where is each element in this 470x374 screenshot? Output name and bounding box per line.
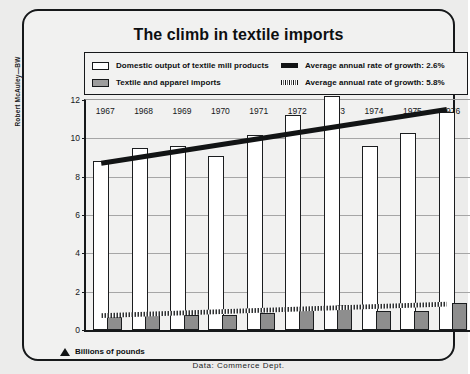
trend-domestic: [101, 110, 447, 164]
hatched-trendline-swatch-icon: [281, 80, 298, 85]
x-tick-label: 1969: [173, 106, 192, 116]
legend-column-left: Domestic output of textile mill products…: [92, 57, 269, 91]
chart-title: The climb in textile imports: [24, 26, 453, 44]
y-tick-label: 6: [75, 210, 80, 220]
plot-area: 0246810121967196819691970197119721973197…: [84, 99, 470, 332]
bar-domestic-output: [400, 133, 416, 330]
y-tick-label: 12: [71, 95, 80, 105]
legend-column-right: Average annual rate of growth: 2.6% Aver…: [281, 57, 445, 91]
legend-item-trend-domestic: Average annual rate of growth: 2.6%: [281, 57, 445, 74]
shaded-square-swatch-icon: [92, 79, 109, 87]
bar-textile-imports: [337, 305, 352, 330]
y-tick-mark: [82, 292, 86, 293]
legend-item-trend-imports: Average annual rate of growth: 5.8%: [281, 74, 445, 91]
chart-frame: The climb in textile imports Domestic ou…: [22, 9, 455, 361]
x-tick-label: 1974: [365, 106, 384, 116]
bar-textile-imports: [107, 317, 122, 330]
bar-textile-imports: [145, 313, 160, 330]
x-tick-label: 1970: [211, 106, 230, 116]
x-tick-label: 1968: [134, 106, 153, 116]
bar-textile-imports: [299, 309, 314, 330]
y-tick-label: 4: [75, 248, 80, 258]
bar-textile-imports: [414, 311, 429, 330]
bar-textile-imports: [376, 311, 391, 330]
bar-domestic-output: [285, 115, 301, 330]
bar-domestic-output: [324, 96, 340, 330]
source-note: Data: Commerce Dept.: [24, 361, 453, 370]
y-tick-mark: [82, 253, 86, 254]
axis-note: Billions of pounds: [60, 347, 145, 356]
axis-note-label: Billions of pounds: [75, 347, 145, 356]
legend-label: Average annual rate of growth: 5.8%: [305, 78, 445, 87]
chart-legend: Domestic output of textile mill products…: [84, 52, 468, 95]
y-tick-mark: [82, 100, 86, 101]
y-tick-label: 0: [75, 325, 80, 335]
triangle-up-icon: [60, 348, 70, 356]
bar-domestic-output: [247, 135, 263, 331]
legend-label: Domestic output of textile mill products: [116, 61, 269, 70]
y-tick-label: 8: [75, 172, 80, 182]
bar-domestic-output: [439, 112, 455, 331]
x-tick-label: 1975: [403, 106, 422, 116]
x-tick-label: 1971: [249, 106, 268, 116]
legend-label: Textile and apparel imports: [116, 78, 221, 87]
legend-item-imports: Textile and apparel imports: [92, 74, 269, 91]
bar-textile-imports: [452, 303, 467, 330]
bar-domestic-output: [93, 161, 109, 330]
bar-domestic-output: [362, 146, 378, 330]
y-tick-label: 2: [75, 287, 80, 297]
open-square-swatch-icon: [92, 62, 109, 70]
bar-textile-imports: [222, 315, 237, 330]
bar-textile-imports: [260, 313, 275, 330]
y-tick-mark: [82, 215, 86, 216]
bar-domestic-output: [170, 146, 186, 330]
y-tick-label: 10: [71, 133, 80, 143]
solid-trendline-swatch-icon: [281, 63, 298, 68]
bar-domestic-output: [132, 148, 148, 330]
artist-credit: Robert McAuley—BW: [14, 37, 21, 147]
y-tick-mark: [82, 138, 86, 139]
legend-item-domestic: Domestic output of textile mill products: [92, 57, 269, 74]
bar-domestic-output: [208, 156, 224, 330]
y-tick-mark: [82, 177, 86, 178]
bar-textile-imports: [184, 315, 199, 330]
legend-label: Average annual rate of growth: 2.6%: [305, 61, 445, 70]
y-tick-mark: [82, 330, 86, 331]
x-tick-label: 1967: [96, 106, 115, 116]
